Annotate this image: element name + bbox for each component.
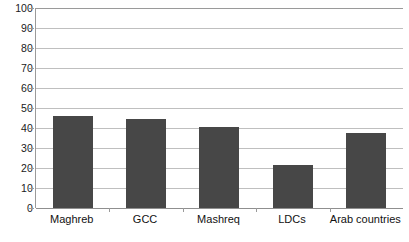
bar-slot <box>330 8 403 208</box>
bar <box>273 165 313 208</box>
x-axis-category-label: Arab countries <box>330 213 401 226</box>
bar <box>346 133 386 208</box>
bars-group <box>36 8 403 208</box>
x-axis-tick-mark <box>330 208 331 212</box>
x-axis-tick-mark <box>183 208 184 212</box>
x-axis-category-label: Mashreq <box>197 213 240 226</box>
y-axis-tick-mark <box>29 208 34 209</box>
y-axis-tick-mark <box>29 28 34 29</box>
x-axis-category-label: Maghreb <box>50 213 93 226</box>
bar-slot <box>183 8 256 208</box>
x-axis-category-label: LDCs <box>278 213 306 226</box>
x-axis: MaghrebGCCMashreqLDCsArab countries <box>35 213 402 235</box>
bar <box>53 116 93 208</box>
y-axis-tick-mark <box>29 188 34 189</box>
y-axis-tick-mark <box>29 128 34 129</box>
y-axis-tick-mark <box>29 148 34 149</box>
bar-slot <box>36 8 109 208</box>
bar <box>126 119 166 208</box>
y-axis-tick-mark <box>29 8 34 9</box>
y-axis-tick-mark <box>29 68 34 69</box>
y-axis-tick-mark <box>29 168 34 169</box>
bar-chart: 0102030405060708090100 MaghrebGCCMashreq… <box>0 0 409 242</box>
plot-area <box>35 8 402 208</box>
bar-slot <box>256 8 329 208</box>
y-axis-tick-mark <box>29 88 34 89</box>
bar <box>199 127 239 208</box>
bar-slot <box>109 8 182 208</box>
axis-baseline <box>36 208 403 209</box>
x-axis-tick-mark <box>109 208 110 212</box>
y-axis-tick-mark <box>29 48 34 49</box>
x-axis-tick-mark <box>256 208 257 212</box>
y-axis: 0102030405060708090100 <box>0 0 33 242</box>
y-axis-tick-mark <box>29 108 34 109</box>
x-axis-category-label: GCC <box>133 213 157 226</box>
